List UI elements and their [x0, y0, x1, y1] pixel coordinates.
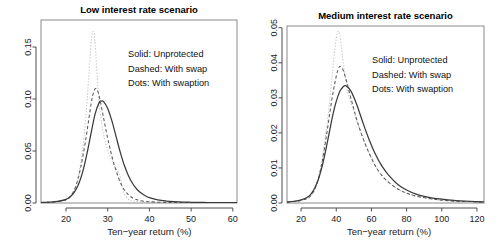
x-tick-label: 30 — [103, 214, 113, 224]
x-tick-label: 100 — [434, 214, 449, 224]
curve-with-swap-left — [41, 88, 237, 202]
y-tick-label: 0.04 — [269, 54, 279, 72]
legend-left: Solid: UnprotectedDashed: With swapDots:… — [128, 49, 209, 88]
y-axis-left: 0.000.050.100.15 — [23, 38, 36, 211]
x-tick-label: 60 — [228, 214, 238, 224]
y-tick-label: 0.10 — [23, 90, 33, 108]
chart-svg-left: Low interest rate scenario2030405060Ten−… — [0, 0, 250, 252]
x-axis-left: 2030405060 — [61, 208, 238, 224]
y-tick-label: 0.02 — [269, 124, 279, 142]
x-axis-label-right: Ten−year return (%) — [347, 226, 431, 237]
legend-line-3: Dots: With swaption — [128, 78, 209, 88]
x-tick-label: 80 — [402, 214, 412, 224]
y-tick-label: 0.01 — [269, 159, 279, 177]
y-tick-label: 0.00 — [23, 194, 33, 212]
chart-svg-right: Medium interest rate scenario20406080100… — [250, 0, 500, 252]
y-tick-label: 0.00 — [269, 194, 279, 212]
x-axis-label-left: Ten−year return (%) — [107, 226, 191, 237]
x-tick-label: 40 — [331, 214, 341, 224]
plot-frame-right — [287, 26, 484, 203]
x-tick-label: 20 — [61, 214, 71, 224]
x-axis-right: 20406080100120 — [296, 208, 484, 224]
y-tick-label: 0.15 — [23, 38, 33, 56]
chart-title-left: Low interest rate scenario — [80, 4, 198, 15]
x-tick-label: 50 — [186, 214, 196, 224]
y-tick-label: 0.03 — [269, 89, 279, 107]
legend-line-1: Solid: Unprotected — [128, 49, 204, 59]
legend-line-3: Dots: With swaption — [372, 84, 453, 94]
figure-root: Low interest rate scenario2030405060Ten−… — [0, 0, 500, 252]
plot-frame-left — [41, 20, 237, 203]
y-tick-label: 0.05 — [23, 142, 33, 160]
legend-line-2: Dashed: With swap — [372, 70, 451, 80]
legend-line-1: Solid: Unprotected — [372, 55, 448, 65]
curve-unprotected-left — [41, 101, 237, 203]
y-tick-label: 0.05 — [269, 19, 279, 37]
x-tick-label: 60 — [366, 214, 376, 224]
legend-right: Solid: UnprotectedDashed: With swapDots:… — [372, 55, 453, 94]
y-axis-right: 0.000.010.020.030.040.05 — [269, 19, 282, 212]
chart-panel-medium-rate: Medium interest rate scenario20406080100… — [250, 0, 500, 252]
x-tick-label: 20 — [296, 214, 306, 224]
chart-title-right: Medium interest rate scenario — [318, 10, 453, 21]
x-tick-label: 120 — [469, 214, 484, 224]
legend-line-2: Dashed: With swap — [128, 64, 207, 74]
x-tick-label: 40 — [144, 214, 154, 224]
curve-unprotected-right — [287, 86, 484, 202]
chart-panel-low-rate: Low interest rate scenario2030405060Ten−… — [0, 0, 250, 252]
